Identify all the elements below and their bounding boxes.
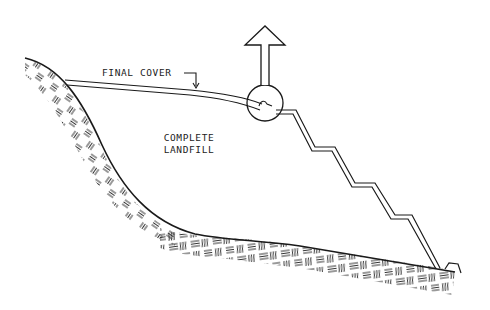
landfill-cross-section-diagram: [0, 0, 490, 310]
final-cover: [65, 80, 262, 110]
ground-hatching: [25, 58, 455, 295]
complete-landfill-label: COMPLETE LANDFILL: [160, 132, 218, 156]
complete-landfill-line1: COMPLETE: [160, 132, 218, 144]
detail-circle: [247, 85, 283, 121]
final-cover-label: FINAL COVER: [102, 67, 172, 79]
stepped-side-slope: [276, 110, 440, 269]
complete-landfill-line2: LANDFILL: [160, 144, 218, 156]
gas-vent-arrow-icon: [245, 26, 285, 85]
final-cover-leader: [184, 73, 199, 88]
